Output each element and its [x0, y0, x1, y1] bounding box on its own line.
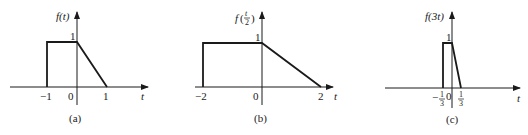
tick-label-a-0: 0 — [68, 90, 74, 102]
y-label-c: f(3t) — [425, 10, 444, 23]
y-label-b-den: 2 — [245, 18, 249, 27]
y-label-a: f(t) — [56, 10, 70, 23]
tick-label-c-0: 0 — [446, 90, 452, 102]
amplitude-label-c: 1 — [446, 31, 452, 43]
panel-b: f ( t 2 ) 1 −2 0 2 t (b) — [195, 9, 338, 125]
panel-c: f(3t) 1 − 1 3 0 1 3 t (c) — [385, 10, 521, 126]
tick-label-b-0: 0 — [253, 90, 259, 102]
panel-a: f(t) 1 −1 0 1 t (a) — [10, 10, 148, 125]
y-label-b-num: t — [245, 9, 248, 18]
tick-label-a-1: 1 — [103, 90, 109, 102]
tick-c2-den: 3 — [459, 99, 463, 108]
amplitude-label-a: 1 — [70, 30, 76, 42]
y-label-b: f ( t 2 ) — [235, 9, 255, 27]
x-label-b: t — [334, 90, 338, 102]
tick-label-c-neg-third: − 1 3 — [432, 90, 445, 108]
y-label-b-rparen: ) — [251, 12, 255, 25]
tick-c0-den: 3 — [440, 99, 444, 108]
tick-label-b-2: 2 — [318, 90, 324, 102]
y-label-b-lparen: ( — [240, 12, 244, 25]
signal-scaling-figure: f(t) 1 −1 0 1 t (a) f ( t 2 ) 1 −2 0 2 t… — [0, 0, 528, 135]
caption-b: (b) — [254, 112, 267, 125]
tick-label-b-neg2: −2 — [195, 90, 207, 102]
tick-c0-sign: − — [432, 91, 438, 103]
tick-c0-num: 1 — [440, 90, 444, 99]
x-label-a: t — [141, 90, 145, 102]
caption-c: (c) — [446, 113, 459, 126]
tick-label-a-neg1: −1 — [40, 90, 52, 102]
tick-c2-num: 1 — [459, 90, 463, 99]
x-label-c: t — [517, 92, 521, 104]
amplitude-label-b: 1 — [255, 31, 261, 43]
caption-a: (a) — [69, 112, 82, 125]
tick-label-c-third: 1 3 — [458, 90, 464, 108]
